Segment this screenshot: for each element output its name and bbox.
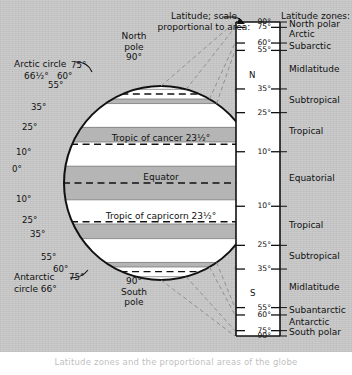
zone-label-equatorial-6: Equatorial — [289, 173, 335, 183]
zone-label-subarctic-2: Subarctic — [289, 41, 331, 51]
scale-tick-3: 55° — [245, 45, 271, 54]
zone-label-tropical-7: Tropical — [289, 220, 323, 230]
scale-callout-line1: Latitude; scale — [171, 11, 237, 21]
globe-lat-north-35°: 35° — [31, 102, 46, 113]
scale-hemisphere-north: N — [249, 70, 255, 80]
globe-lat-south-55°: 55° — [41, 252, 56, 263]
zone-label-subtropical-8: Subtropical — [289, 251, 340, 261]
scale-tick-8: 25° — [245, 240, 271, 249]
globe-lat-south-75°: 75° — [69, 272, 84, 283]
south-pole-line2: South — [121, 287, 147, 297]
figure-latitude-zones: Latitude; scale proportional to area: La… — [0, 0, 352, 375]
arctic-circle-line1: Arctic circle — [14, 59, 66, 69]
scale-tick-13: 90° — [245, 331, 271, 340]
globe-lat-north-25°: 25° — [22, 122, 37, 133]
globe-lat-north-10°: 10° — [16, 147, 31, 158]
antarctic-circle-label: Antarctic — [14, 272, 54, 283]
zone-label-tropical-5: Tropical — [289, 126, 323, 136]
zone-label-south-polar-12: South polar — [289, 327, 341, 337]
globe-lat-north-55°: 55° — [48, 80, 63, 91]
south-pole-line3: pole — [124, 297, 143, 307]
north-pole-line3: 90° — [126, 52, 142, 62]
north-pole-line2: pole — [124, 42, 143, 52]
zone-label-north-polar-0: North polar — [289, 19, 340, 29]
scale-tick-7: 10° — [245, 201, 271, 210]
north-pole-label: North pole 90° — [101, 31, 167, 63]
zone-label-subantarctic-10: Subantarctic — [289, 305, 346, 315]
globe-band-label-0: Tropic of cancer 23½° — [60, 133, 262, 144]
north-pole-line1: North — [121, 31, 146, 41]
scale-tick-11: 60° — [245, 310, 271, 319]
globe-lat-south-60°: 60° — [53, 264, 68, 275]
figure-caption: Latitude zones and the proportional area… — [0, 357, 352, 367]
scale-tick-6: 10° — [245, 147, 271, 156]
south-pole-label: 90° South pole — [101, 276, 167, 308]
zone-label-antarctic-11: Antarctic — [289, 317, 329, 327]
scale-callout-line2: proportional to area: — [158, 22, 251, 32]
globe-lat-south-35°: 35° — [30, 229, 45, 240]
scale-tick-5: 25° — [245, 108, 271, 117]
antarctic-circle-value: circle 66° — [14, 284, 57, 295]
arctic-circle-label: Arctic circle — [14, 59, 66, 70]
globe-lat-south-10°: 10° — [16, 194, 31, 205]
scale-tick-1: 75° — [245, 22, 271, 31]
globe-band-label-1: Equator — [60, 172, 262, 183]
scale-tick-9: 35° — [245, 264, 271, 273]
zone-label-subtropical-4: Subtropical — [289, 95, 340, 105]
globe-lat-north-75°: 75° — [71, 60, 86, 71]
globe-band-label-2: Tropic of capricorn 23½° — [60, 211, 262, 222]
zone-label-arctic-1: Arctic — [289, 29, 315, 39]
globe-lat-south-25°: 25° — [22, 215, 37, 226]
globe-lat-north-0°: 0° — [12, 164, 22, 175]
scale-tick-4: 35° — [245, 84, 271, 93]
south-pole-line1: 90° — [126, 276, 142, 286]
zone-label-midlatitude-3: Midlatitude — [289, 64, 340, 74]
scale-hemisphere-south: S — [250, 288, 255, 298]
arctic-circle-value: 66½° — [24, 71, 49, 82]
zone-label-midlatitude-9: Midlatitude — [289, 282, 340, 292]
scale-callout-label: Latitude; scale proportional to area: — [148, 11, 260, 32]
